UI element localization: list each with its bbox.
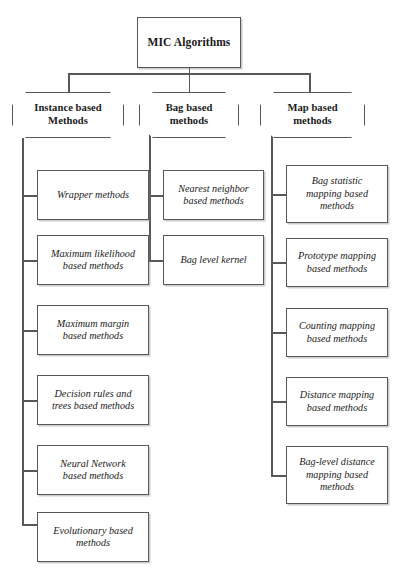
node-leaf-prototype-mapping: Prototype mapping based methods	[286, 238, 388, 287]
node-leaf-label: Maximum likelihood based methods	[51, 248, 135, 273]
node-category-instance-based-label: Instance based Methods	[34, 102, 102, 128]
connector-map-child-2	[271, 262, 286, 264]
node-leaf-maximum-likelihood: Maximum likelihood based methods	[37, 235, 149, 285]
connector-map-child-1	[271, 194, 286, 196]
node-root-label: MIC Algorithms	[148, 35, 231, 49]
connector-instance-child-6	[22, 524, 37, 526]
connector-map-child-4	[271, 401, 286, 403]
node-leaf-bag-statistic-mapping: Bag statistic mapping based methods	[286, 165, 388, 223]
node-leaf-label: Distance mapping based methods	[300, 389, 374, 414]
connector-bus-to-instance	[68, 73, 70, 93]
node-leaf-distance-mapping: Distance mapping based methods	[286, 377, 388, 426]
connector-instance-child-1	[22, 195, 37, 197]
connector-bus-to-bag	[189, 73, 191, 93]
taxonomy-diagram: MIC Algorithms Instance based Methods Ba…	[0, 0, 400, 587]
connector-map-child-5	[271, 475, 286, 477]
node-leaf-label: Bag-level distance mapping based methods	[299, 456, 375, 493]
node-leaf-label: Evolutionary based methods	[53, 525, 133, 550]
node-leaf-label: Bag level kernel	[180, 254, 246, 266]
node-leaf-decision-rules-trees: Decision rules and trees based methods	[37, 375, 149, 425]
connector-bus-to-map	[309, 73, 311, 93]
connector-instance-child-5	[22, 470, 37, 472]
connector-bag-child-2	[149, 260, 163, 262]
node-leaf-nearest-neighbor: Nearest neighbor based methods	[163, 170, 264, 220]
node-category-bag-based-label: Bag based methods	[166, 102, 213, 128]
spine-map-based	[271, 132, 273, 475]
node-leaf-neural-network: Neural Network based methods	[37, 445, 149, 495]
node-category-map-based: Map based methods	[260, 92, 365, 138]
node-leaf-bag-level-distance-mapping: Bag-level distance mapping based methods	[286, 446, 388, 504]
node-category-instance-based: Instance based Methods	[12, 92, 124, 138]
node-leaf-label: Counting mapping based methods	[299, 320, 375, 345]
connector-instance-child-4	[22, 400, 37, 402]
node-leaf-label: Nearest neighbor based methods	[178, 183, 249, 208]
node-category-map-based-label: Map based methods	[287, 102, 337, 128]
node-category-bag-based: Bag based methods	[139, 92, 239, 138]
node-leaf-label: Neural Network based methods	[60, 458, 125, 483]
node-leaf-label: Wrapper methods	[57, 189, 129, 201]
node-leaf-label: Bag statistic mapping based methods	[306, 175, 368, 212]
connector-instance-child-2	[22, 260, 37, 262]
connector-map-child-3	[271, 332, 286, 334]
node-leaf-counting-mapping: Counting mapping based methods	[286, 308, 388, 357]
connector-bag-child-1	[149, 195, 163, 197]
node-leaf-bag-level-kernel: Bag level kernel	[163, 235, 264, 285]
node-leaf-maximum-margin: Maximum margin based methods	[37, 305, 149, 355]
node-leaf-label: Prototype mapping based methods	[298, 250, 376, 275]
node-leaf-evolutionary-based: Evolutionary based methods	[37, 512, 149, 562]
connector-instance-child-3	[22, 330, 37, 332]
node-root: MIC Algorithms	[137, 17, 241, 68]
node-leaf-label: Maximum margin based methods	[57, 318, 129, 343]
node-leaf-wrapper-methods: Wrapper methods	[37, 170, 149, 220]
node-leaf-label: Decision rules and trees based methods	[52, 388, 134, 413]
